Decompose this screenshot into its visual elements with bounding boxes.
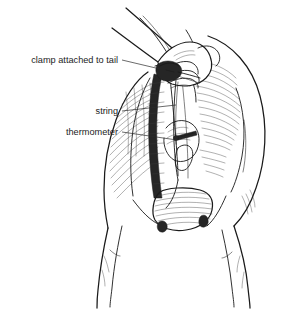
wrist-lower-edge bbox=[112, 28, 158, 62]
rump-right-outline bbox=[208, 36, 265, 226]
leg-hair-left bbox=[102, 256, 109, 286]
hind-leg-left-inner bbox=[110, 226, 122, 307]
teat-left bbox=[157, 221, 167, 232]
labels-group: clamp attached to tail string thermomete… bbox=[31, 55, 118, 137]
hatching-right-flank-hair bbox=[242, 190, 255, 214]
teat-right bbox=[199, 215, 208, 227]
hatching-right-rump-secondary bbox=[200, 150, 226, 177]
udder-group bbox=[153, 188, 213, 232]
hind-leg-right-inner bbox=[222, 230, 234, 307]
label-clamp-attached-to-tail: clamp attached to tail bbox=[31, 55, 118, 65]
tail-lower-shaft-2 bbox=[182, 80, 188, 178]
thigh-left-inner bbox=[131, 78, 150, 196]
hock-left bbox=[110, 250, 120, 256]
cow-body-group bbox=[97, 8, 265, 308]
illustration-figure: clamp attached to tail string thermomete… bbox=[0, 0, 291, 311]
illustration-canvas: clamp attached to tail string thermomete… bbox=[0, 0, 291, 311]
hind-leg-left-outer bbox=[97, 228, 108, 308]
perineum-outline bbox=[164, 121, 199, 162]
finger-4 bbox=[171, 85, 190, 88]
wrist-upper-edge bbox=[126, 8, 172, 48]
leader-line-clamp bbox=[122, 60, 160, 69]
leg-hair-right bbox=[237, 256, 244, 288]
label-thermometer: thermometer bbox=[66, 127, 118, 137]
inner-thigh-right bbox=[207, 196, 226, 226]
clamp-body bbox=[156, 61, 182, 81]
hind-leg-right-outer bbox=[234, 226, 250, 308]
label-string: string bbox=[96, 106, 118, 116]
